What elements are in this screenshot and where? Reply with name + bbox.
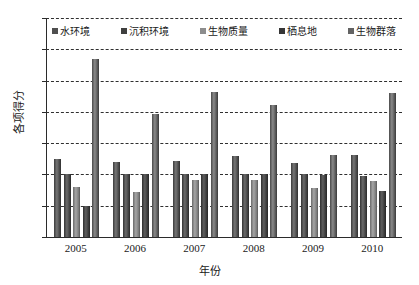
x-tick-label: 2007 xyxy=(164,242,224,254)
bar xyxy=(351,155,358,237)
y-tick-mark xyxy=(42,174,46,175)
bar xyxy=(113,162,120,237)
bar xyxy=(123,174,130,237)
bar xyxy=(83,206,90,237)
bar xyxy=(251,180,258,237)
legend-label: 生物质量 xyxy=(208,23,248,38)
x-axis-title: 年份 xyxy=(0,262,419,278)
legend-swatch-icon xyxy=(121,28,127,34)
bar xyxy=(360,176,367,237)
legend-swatch-icon xyxy=(52,28,58,34)
gridline xyxy=(46,112,402,113)
legend-item: 沉积环境 xyxy=(121,23,169,38)
legend-swatch-icon xyxy=(348,28,354,34)
bar xyxy=(92,59,99,237)
bar xyxy=(201,174,208,237)
gridline xyxy=(46,206,402,207)
x-tick-label: 2009 xyxy=(283,242,343,254)
gridline xyxy=(46,18,402,19)
legend-label: 沉积环境 xyxy=(129,23,169,38)
bar xyxy=(389,93,396,237)
y-axis-line xyxy=(46,18,47,237)
y-tick-mark xyxy=(42,49,46,50)
y-axis-title: 各项得分 xyxy=(10,72,26,152)
legend-label: 生物群落 xyxy=(356,23,396,38)
bar-chart: 各项得分 年份 05101520253035 20052006200720082… xyxy=(0,0,419,285)
plot-area: 05101520253035 200520062007200820092010 xyxy=(46,18,402,237)
x-tick-label: 2005 xyxy=(46,242,106,254)
legend-item: 生物群落 xyxy=(348,23,396,38)
gridline xyxy=(46,81,402,82)
x-tick-label: 2008 xyxy=(224,242,284,254)
bar xyxy=(270,105,277,237)
bar xyxy=(311,188,318,237)
legend-swatch-icon xyxy=(200,28,206,34)
bar xyxy=(330,155,337,237)
bar xyxy=(232,156,239,237)
y-tick-mark xyxy=(42,143,46,144)
legend-label: 栖息地 xyxy=(287,23,317,38)
bar xyxy=(64,174,71,237)
x-tick-label: 2010 xyxy=(342,242,402,254)
y-tick-mark xyxy=(42,112,46,113)
legend-item: 栖息地 xyxy=(279,23,317,38)
bar xyxy=(142,174,149,237)
bar xyxy=(73,187,80,237)
bar xyxy=(173,161,180,237)
legend-item: 水环境 xyxy=(52,23,90,38)
bar xyxy=(379,191,386,237)
legend-item: 生物质量 xyxy=(200,23,248,38)
chart-legend: 水环境沉积环境生物质量栖息地生物群落 xyxy=(46,23,402,38)
gridline xyxy=(46,237,402,238)
legend-swatch-icon xyxy=(279,28,285,34)
y-tick-mark xyxy=(42,237,46,238)
bar xyxy=(242,174,249,237)
bar xyxy=(211,92,218,237)
bar xyxy=(291,163,298,237)
x-tick-label: 2006 xyxy=(105,242,165,254)
y-tick-mark xyxy=(42,206,46,207)
bar xyxy=(301,174,308,237)
bar xyxy=(261,174,268,237)
bar xyxy=(152,114,159,237)
bar xyxy=(320,175,327,237)
bar xyxy=(182,174,189,237)
bar xyxy=(54,159,61,237)
bar xyxy=(133,192,140,237)
legend-label: 水环境 xyxy=(60,23,90,38)
y-tick-mark xyxy=(42,81,46,82)
bar xyxy=(370,181,377,237)
gridline xyxy=(46,174,402,175)
gridline xyxy=(46,49,402,50)
bar xyxy=(192,180,199,237)
gridline xyxy=(46,143,402,144)
y-tick-mark xyxy=(42,18,46,19)
